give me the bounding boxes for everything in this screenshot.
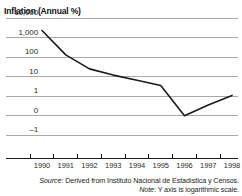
y-tick-label: 10,000: [4, 8, 38, 17]
source-footnote: Source: Derived from Instituto Nacional …: [39, 176, 239, 185]
data-series-group: [42, 30, 232, 115]
y-tick-label: 1,000: [4, 28, 38, 37]
x-tick-label: 1993: [100, 161, 126, 170]
y-tick-label: 1: [4, 86, 38, 95]
source-text: : Derived from Instituto Nacional de Est…: [61, 176, 239, 185]
y-tick-label: –1: [4, 125, 38, 134]
x-tick-label: 1996: [172, 161, 198, 170]
axis-note-footnote: Note: Y axis is logarithmic scale.: [139, 185, 239, 194]
x-tick-label: 1991: [53, 161, 79, 170]
y-tick-label: 0: [4, 106, 38, 115]
y-tick-label: 10: [4, 67, 38, 76]
source-label: Source: [39, 176, 61, 185]
x-tick-label: 1995: [148, 161, 174, 170]
x-tick-label: 1990: [29, 161, 55, 170]
note-text: : Y axis is logarithmic scale.: [154, 185, 239, 194]
x-tick-label: 1998: [219, 161, 242, 170]
note-label: Note: [139, 185, 154, 194]
inflation-line: [42, 30, 232, 115]
x-tick-label: 1992: [77, 161, 103, 170]
x-tick-label: 1994: [124, 161, 150, 170]
y-tick-label: 100: [4, 47, 38, 56]
x-axis-group: [6, 154, 242, 158]
x-tick-label: 1997: [195, 161, 221, 170]
inflation-chart-figure: Inflation (Annual %) 10,0001,0001001010–…: [0, 0, 242, 196]
